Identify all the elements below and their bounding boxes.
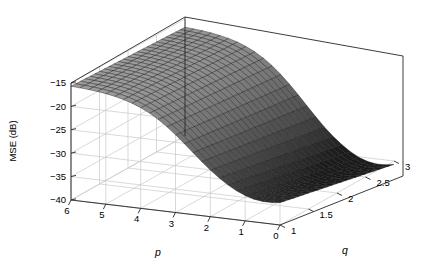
z-tick-label: −40 xyxy=(50,194,66,205)
y-tick-label: 1 xyxy=(291,225,296,236)
z-tick-label: −35 xyxy=(50,171,66,182)
y-tick-label: 1.5 xyxy=(320,209,333,220)
z-tick-label: −20 xyxy=(50,101,66,112)
x-tick-label: 2 xyxy=(204,222,209,233)
figure-canvas: −15−20−25−30−35−40 6543210 11.522.53 p q… xyxy=(0,0,434,273)
z-tick-label: −25 xyxy=(50,124,66,135)
x-tick-label: 5 xyxy=(99,209,104,220)
surface-plot-3d: −15−20−25−30−35−40 6543210 11.522.53 p q… xyxy=(0,0,434,273)
y-tick-label: 2 xyxy=(348,193,353,204)
y-tick-label: 2.5 xyxy=(377,177,390,188)
z-tick-label: −30 xyxy=(50,148,66,159)
x-tick-label: 0 xyxy=(273,230,278,241)
z-axis-title: MSE (dB) xyxy=(7,120,18,161)
y-tick-label: 3 xyxy=(405,161,410,172)
x-tick-label: 4 xyxy=(134,213,139,224)
x-tick-label: 3 xyxy=(169,218,174,229)
y-axis-title: q xyxy=(342,244,348,256)
x-tick-label: 1 xyxy=(239,226,244,237)
x-tick-label: 6 xyxy=(64,205,69,216)
z-tick-label: −15 xyxy=(50,77,66,88)
x-axis-title: p xyxy=(154,246,161,258)
